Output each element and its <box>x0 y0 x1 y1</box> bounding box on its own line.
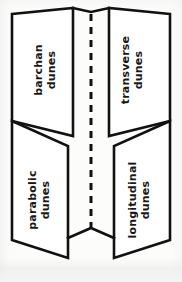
barchan-dunes-label-line2: dunes <box>45 50 58 89</box>
transverse-dunes-label-line2: dunes <box>132 50 145 89</box>
transverse-dunes-label-line1: transverse <box>119 36 132 105</box>
top-center-ridge-edge <box>73 8 109 12</box>
barchan-dunes-label-line1: barchan <box>32 44 45 96</box>
bottom-center-fold-edge <box>68 228 114 238</box>
parabolic-dunes-label-line1: parabolic <box>26 170 39 229</box>
longitudinal-dunes-label-line1: longitudinal <box>126 162 139 239</box>
diagram-canvas: barchan dunes transverse dunes parabolic… <box>0 0 182 282</box>
barchan-dunes-label: barchan dunes <box>32 44 58 96</box>
longitudinal-dunes-label-line2: dunes <box>139 180 152 219</box>
folded-panel-illustration: barchan dunes transverse dunes parabolic… <box>0 0 182 282</box>
parabolic-dunes-label-line2: dunes <box>39 180 52 219</box>
